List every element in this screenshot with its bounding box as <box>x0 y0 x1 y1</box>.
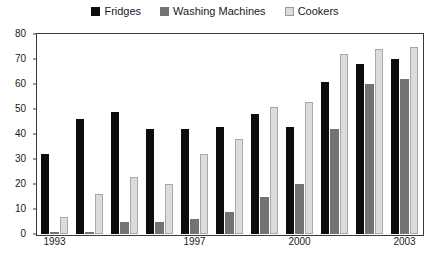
bar-washing <box>85 232 93 235</box>
bar-washing <box>120 222 128 235</box>
bar-washing <box>260 197 268 235</box>
chart-legend: FridgesWashing MachinesCookers <box>0 0 430 22</box>
bar-washing <box>190 219 198 234</box>
legend-entry: Washing Machines <box>160 6 266 17</box>
legend-label: Cookers <box>298 6 339 17</box>
bar-cookers <box>60 217 68 235</box>
y-axis-tick-label: 10 <box>0 204 32 214</box>
bar-chart: FridgesWashing MachinesCookers 010203040… <box>0 0 430 267</box>
bar-washing <box>50 232 58 235</box>
bar-group <box>317 34 352 234</box>
bar-fridges <box>356 64 364 234</box>
x-axis-tick-label: 2000 <box>288 237 310 247</box>
y-axis-tick-label: 20 <box>0 179 32 189</box>
bar-cookers <box>410 47 418 235</box>
legend-label: Washing Machines <box>173 6 266 17</box>
bar-group <box>72 34 107 234</box>
y-axis-tick-label: 40 <box>0 129 32 139</box>
x-axis-tick-label: 1993 <box>43 237 65 247</box>
bar-fridges <box>76 119 84 234</box>
y-axis: 01020304050607080 <box>0 33 32 234</box>
bar-cookers <box>270 107 278 235</box>
bar-washing <box>365 84 373 234</box>
bar-group <box>212 34 247 234</box>
bar-cookers <box>305 102 313 235</box>
bar-fridges <box>251 114 259 234</box>
bar-group <box>142 34 177 234</box>
bar-group <box>107 34 142 234</box>
bars-layer <box>37 34 422 234</box>
bar-fridges <box>216 127 224 235</box>
square-swatch-icon <box>91 7 100 16</box>
x-axis-tick-label: 1997 <box>183 237 205 247</box>
bar-cookers <box>235 139 243 234</box>
legend-label: Fridges <box>104 6 141 17</box>
y-axis-tick-label: 30 <box>0 154 32 164</box>
bar-cookers <box>130 177 138 235</box>
y-axis-tick-label: 80 <box>0 29 32 39</box>
bar-fridges <box>391 59 399 234</box>
bar-group <box>387 34 422 234</box>
bar-fridges <box>41 154 49 234</box>
bar-washing <box>155 222 163 235</box>
y-axis-tick-label: 70 <box>0 54 32 64</box>
x-axis-tick-label: 2003 <box>393 237 415 247</box>
legend-entry: Fridges <box>91 6 141 17</box>
bar-cookers <box>165 184 173 234</box>
bar-cookers <box>95 194 103 234</box>
y-axis-tick-label: 50 <box>0 104 32 114</box>
legend-entry: Cookers <box>285 6 339 17</box>
bar-group <box>247 34 282 234</box>
square-swatch-icon <box>160 7 169 16</box>
bar-group <box>282 34 317 234</box>
bar-fridges <box>286 127 294 235</box>
bar-group <box>177 34 212 234</box>
bar-cookers <box>340 54 348 234</box>
bar-washing <box>225 212 233 235</box>
bar-group <box>352 34 387 234</box>
bar-washing <box>295 184 303 234</box>
bar-fridges <box>146 129 154 234</box>
square-swatch-icon <box>285 7 294 16</box>
bar-washing <box>330 129 338 234</box>
bar-washing <box>400 79 408 234</box>
bar-cookers <box>200 154 208 234</box>
bar-fridges <box>181 129 189 234</box>
bar-fridges <box>321 82 329 235</box>
x-axis: 1993199720002003 <box>0 237 430 253</box>
bar-cookers <box>375 49 383 234</box>
bar-group <box>37 34 72 234</box>
bar-fridges <box>111 112 119 235</box>
y-axis-tick-label: 60 <box>0 79 32 89</box>
